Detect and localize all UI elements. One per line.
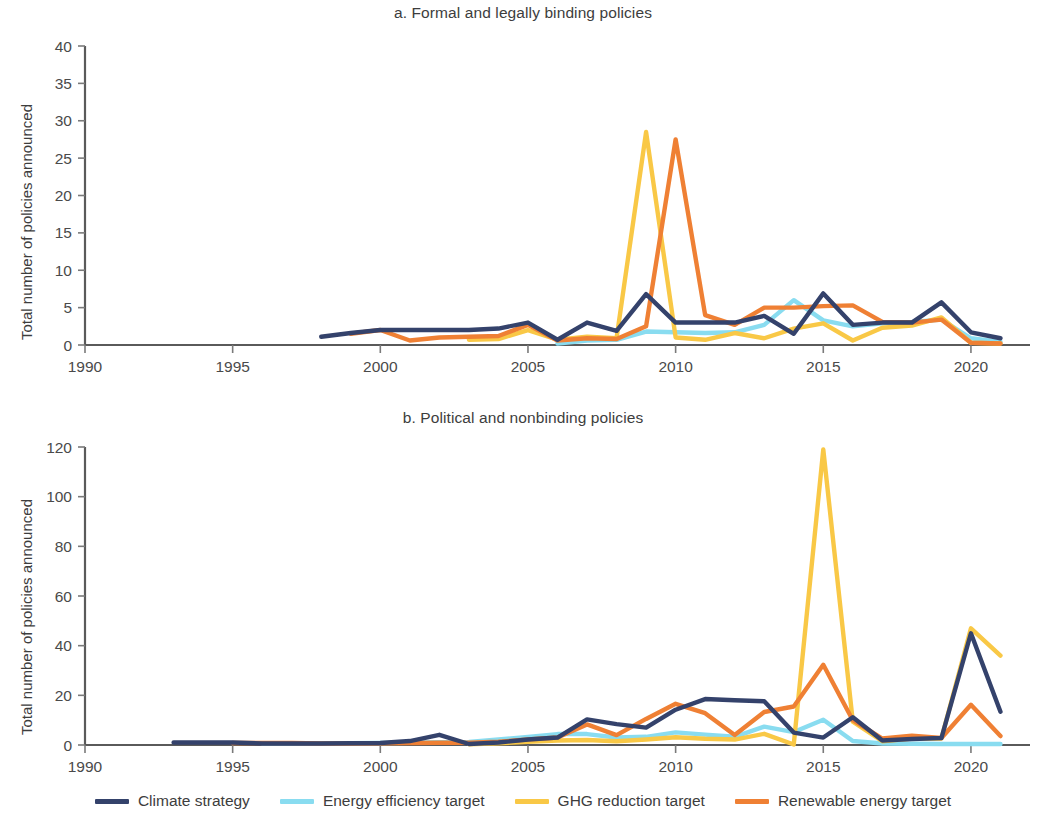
chart-panel-a: a. Formal and legally binding policies T… — [0, 0, 1046, 400]
panel-b-plot: 0204060801001201990199520002005201020152… — [0, 405, 1046, 785]
x-tick-label: 1990 — [68, 358, 103, 375]
x-tick-label: 2000 — [363, 758, 398, 775]
y-tick-label: 40 — [55, 38, 73, 55]
legend-swatch-icon — [95, 799, 129, 804]
series-line-climate-strategy — [174, 633, 1001, 744]
y-tick-label: 35 — [55, 75, 72, 92]
chart-panel-b: b. Political and nonbinding policies Tot… — [0, 405, 1046, 785]
x-tick-label: 2020 — [954, 758, 989, 775]
y-tick-label: 0 — [63, 337, 72, 354]
x-tick-label: 2020 — [954, 358, 989, 375]
panel-a-plot: 0510152025303540199019952000200520102015… — [0, 0, 1046, 400]
legend-label: GHG reduction target — [558, 792, 705, 810]
legend-label: Climate strategy — [138, 792, 250, 810]
x-tick-label: 2015 — [806, 758, 840, 775]
legend-item-climate-strategy[interactable]: Climate strategy — [95, 792, 250, 810]
series-line-ghg-reduction-target — [469, 132, 1001, 344]
y-tick-label: 20 — [55, 187, 73, 204]
y-tick-label: 120 — [46, 439, 72, 456]
legend-swatch-icon — [735, 799, 769, 804]
legend-swatch-icon — [280, 799, 314, 804]
y-tick-label: 10 — [55, 262, 73, 279]
x-tick-label: 1990 — [68, 758, 103, 775]
y-tick-label: 5 — [63, 299, 72, 316]
y-tick-label: 0 — [63, 737, 72, 754]
legend-item-ghg-reduction-target[interactable]: GHG reduction target — [515, 792, 705, 810]
legend-label: Energy efficiency target — [323, 792, 485, 810]
x-tick-label: 2000 — [363, 358, 398, 375]
policy-announcements-figure: a. Formal and legally binding policies T… — [0, 0, 1046, 823]
y-tick-label: 15 — [55, 224, 72, 241]
x-tick-label: 2010 — [658, 758, 693, 775]
x-tick-label: 2005 — [511, 758, 545, 775]
chart-legend: Climate strategyEnergy efficiency target… — [0, 792, 1046, 810]
x-tick-label: 1995 — [215, 358, 249, 375]
legend-item-energy-efficiency-target[interactable]: Energy efficiency target — [280, 792, 485, 810]
y-tick-label: 60 — [55, 588, 73, 605]
y-tick-label: 80 — [55, 538, 73, 555]
y-tick-label: 20 — [55, 687, 73, 704]
series-line-renewable-energy-target — [233, 665, 1001, 744]
y-tick-label: 40 — [55, 637, 73, 654]
legend-swatch-icon — [515, 799, 549, 804]
y-tick-label: 30 — [55, 112, 73, 129]
x-tick-label: 2015 — [806, 358, 840, 375]
x-tick-label: 2005 — [511, 358, 545, 375]
y-tick-label: 100 — [46, 488, 72, 505]
x-tick-label: 1995 — [215, 758, 249, 775]
series-line-renewable-energy-target — [351, 139, 1001, 343]
x-tick-label: 2010 — [658, 358, 693, 375]
legend-label: Renewable energy target — [778, 792, 951, 810]
legend-item-renewable-energy-target[interactable]: Renewable energy target — [735, 792, 951, 810]
y-tick-label: 25 — [55, 150, 72, 167]
